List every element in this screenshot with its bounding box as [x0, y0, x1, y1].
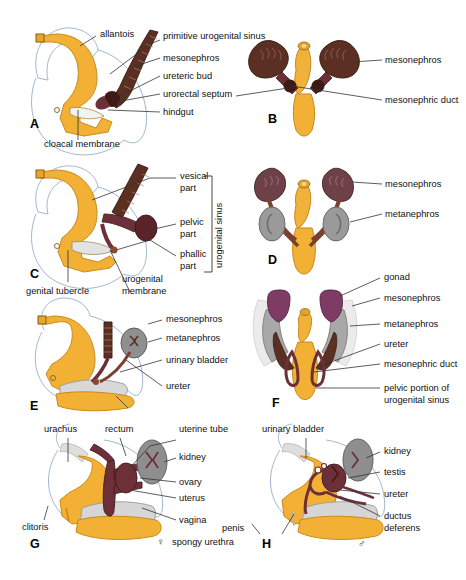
panel-letter-f: F — [272, 396, 280, 410]
label-vesical-part-1: vesical — [180, 171, 208, 182]
label-mesonephros-a: mesonephros — [163, 53, 219, 64]
label-pelvic-part-1: pelvic — [180, 217, 204, 228]
panel-letter-b: B — [268, 112, 277, 126]
label-urogenital-membrane-2: membrane — [122, 286, 166, 297]
label-cloacal-membrane: cloacal membrane — [44, 139, 120, 150]
label-deferens: deferens — [384, 523, 420, 534]
label-ureter-h: ureter — [384, 489, 408, 500]
label-mesonephric-duct-b: mesonephric duct — [385, 95, 458, 106]
label-vesical-part-2: part — [180, 183, 196, 194]
label-uterus: uterus — [179, 493, 205, 504]
label-ureter-e: ureter — [166, 381, 190, 392]
label-phallic-part-1: phallic — [180, 249, 206, 260]
label-ureteric-bud: ureteric bud — [163, 71, 212, 82]
panel-letter-h: H — [262, 537, 271, 551]
label-mesonephros-d: mesonephros — [385, 179, 441, 190]
panel-letter-g: G — [30, 537, 40, 551]
label-kidney-g: kidney — [179, 452, 206, 463]
panel-f-artwork — [253, 290, 357, 400]
label-mesonephros-e: mesonephros — [166, 314, 222, 325]
label-pelvic-part-2: part — [180, 229, 196, 240]
panel-letter-d: D — [268, 253, 277, 267]
label-urinary-bladder-e: urinary bladder — [166, 355, 228, 366]
label-urogenital-membrane-1: urogenital — [122, 274, 163, 285]
panel-letter-c: C — [30, 267, 39, 281]
label-ureter-f: ureter — [384, 339, 408, 350]
panel-e-artwork — [35, 298, 147, 411]
panel-letter-a: A — [30, 117, 39, 131]
label-ovary: ovary — [179, 477, 202, 488]
label-mesonephros-f: mesonephros — [384, 293, 440, 304]
female-symbol: ♀ — [157, 536, 165, 547]
label-ductus: ductus — [384, 511, 411, 522]
label-pelvic-portion-2: urogenital sinus — [384, 395, 449, 406]
panel-g-artwork — [49, 424, 168, 539]
panel-letter-e: E — [30, 399, 38, 413]
label-genital-tubercle: genital tubercle — [26, 286, 89, 297]
label-phallic-part-2: part — [180, 261, 196, 272]
label-vagina: vagina — [179, 515, 206, 526]
label-urinary-bladder-h: urinary bladder — [262, 424, 324, 435]
label-metanephros-e: metanephros — [166, 333, 220, 344]
label-urogenital-sinus-bracket: urogenital sinus — [214, 182, 224, 268]
label-gonad-f: gonad — [384, 272, 410, 283]
label-mesonephric-duct-f: mesonephric duct — [384, 359, 457, 370]
label-primitive-urogenital-sinus: primitive urogenital sinus — [163, 31, 265, 42]
label-uterine-tube: uterine tube — [179, 424, 228, 435]
label-rectum: rectum — [105, 424, 133, 435]
label-hindgut: hindgut — [163, 107, 194, 118]
label-urorectal-septum: urorectal septum — [163, 89, 232, 100]
label-pelvic-portion-1: pelvic portion of — [384, 383, 449, 394]
panel-a-artwork — [32, 28, 158, 155]
panel-h-artwork — [271, 424, 385, 539]
label-allantois: allantois — [100, 29, 134, 40]
label-metanephros-f: metanephros — [384, 319, 438, 330]
label-clitoris: clitoris — [22, 522, 48, 533]
label-spongy-urethra: spongy urethra — [172, 537, 234, 548]
label-testis: testis — [384, 467, 406, 478]
label-metanephros-d: metanephros — [385, 209, 439, 220]
label-mesonephros-b: mesonephros — [385, 55, 441, 66]
label-penis: penis — [222, 523, 244, 534]
label-urachus: urachus — [44, 424, 77, 435]
label-kidney-h: kidney — [384, 446, 411, 457]
male-symbol: ♂ — [358, 538, 366, 549]
